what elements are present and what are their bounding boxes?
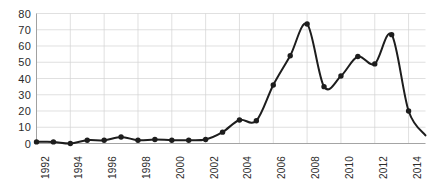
gridlines bbox=[37, 14, 426, 144]
x-tick-label: 2012 bbox=[379, 156, 389, 179]
x-tick-label: 2002 bbox=[210, 156, 220, 179]
y-tick-label: 70 bbox=[1, 24, 31, 35]
x-tick-label: 1994 bbox=[74, 156, 84, 179]
y-tick-label: 30 bbox=[1, 89, 31, 100]
x-tick-label: 2000 bbox=[176, 156, 186, 179]
x-tick-label: 2006 bbox=[277, 156, 287, 179]
x-tick-label: 1998 bbox=[142, 156, 152, 179]
y-tick-label: 20 bbox=[1, 106, 31, 117]
x-tick-label: 1996 bbox=[108, 156, 118, 179]
x-tick-label: 2008 bbox=[311, 156, 321, 179]
x-tick-label: 1992 bbox=[41, 156, 51, 179]
x-tick-label: 2014 bbox=[413, 156, 423, 179]
series-line bbox=[37, 23, 426, 143]
y-tick-label: 60 bbox=[1, 41, 31, 52]
y-tick-label: 0 bbox=[1, 138, 31, 149]
x-tick-label: 2010 bbox=[345, 156, 355, 179]
y-tick-label: 50 bbox=[1, 57, 31, 68]
y-tick-label: 10 bbox=[1, 122, 31, 133]
x-tick-label: 2004 bbox=[243, 156, 253, 179]
y-tick-label: 80 bbox=[1, 8, 31, 19]
y-tick-label: 40 bbox=[1, 73, 31, 84]
line-chart: 01020304050607080 1992199419961998200020… bbox=[0, 0, 438, 182]
chart-canvas bbox=[0, 0, 438, 182]
